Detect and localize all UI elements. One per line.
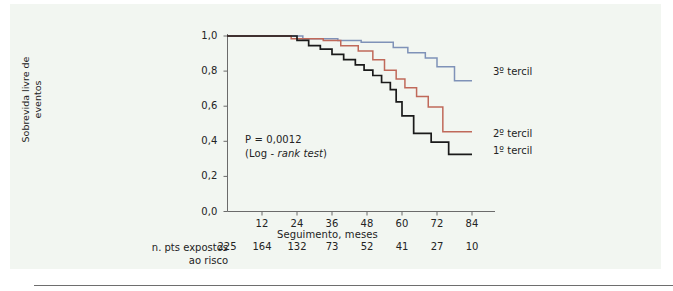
- pvalue-annotation: P = 0,0012: [245, 134, 302, 145]
- risk-table-count: 52: [354, 241, 380, 252]
- y-tick-label: 0,0: [192, 206, 218, 217]
- bottom-divider-rule: [34, 285, 673, 286]
- x-tick-label: 24: [284, 218, 310, 229]
- risk-table-count: 73: [319, 241, 345, 252]
- x-tick-label: 60: [389, 218, 415, 229]
- logrank-prefix: (Log -: [245, 148, 277, 159]
- risk-table-count: 10: [459, 241, 485, 252]
- y-tick-label: 0,2: [192, 170, 218, 181]
- y-tick-label: 0,4: [192, 135, 218, 146]
- series-label-tercil-1: 1º tercil: [493, 145, 532, 156]
- x-tick-label: 36: [319, 218, 345, 229]
- y-tick-label: 1,0: [192, 30, 218, 41]
- series-label-tercil-2: 2º tercil: [493, 128, 532, 139]
- logrank-test-annotation: (Log - rank test): [245, 148, 327, 159]
- series-curve-1: [227, 36, 472, 81]
- y-tick-label: 0,6: [192, 100, 218, 111]
- x-tick-label: 12: [249, 218, 275, 229]
- risk-table-count: 41: [389, 241, 415, 252]
- risk-table-count: 27: [424, 241, 450, 252]
- x-tick-label: 48: [354, 218, 380, 229]
- kaplan-meier-chart: Sobrevida livre de eventos Seguimento, m…: [0, 0, 673, 291]
- series-label-tercil-3: 3º tercil: [493, 66, 532, 77]
- risk-table-count: 225: [214, 241, 240, 252]
- figure-page: Sobrevida livre de eventos Seguimento, m…: [0, 0, 673, 291]
- x-tick-label: 84: [459, 218, 485, 229]
- x-tick-label: 72: [424, 218, 450, 229]
- risk-table-label-line2: ao risco: [140, 254, 228, 267]
- y-tick-marks: [224, 36, 228, 212]
- y-axis-title: Sobrevida livre de eventos: [20, 45, 43, 155]
- logrank-italic: rank test: [277, 148, 323, 159]
- chart-axes: [228, 34, 496, 212]
- y-tick-label: 0,8: [192, 65, 218, 76]
- risk-table-count: 164: [249, 241, 275, 252]
- x-axis-title: Seguimento, meses: [277, 229, 378, 240]
- logrank-suffix: ): [323, 148, 327, 159]
- series-curve-2: [227, 36, 472, 132]
- x-tick-marks: [262, 212, 472, 216]
- risk-table-count: 132: [284, 241, 310, 252]
